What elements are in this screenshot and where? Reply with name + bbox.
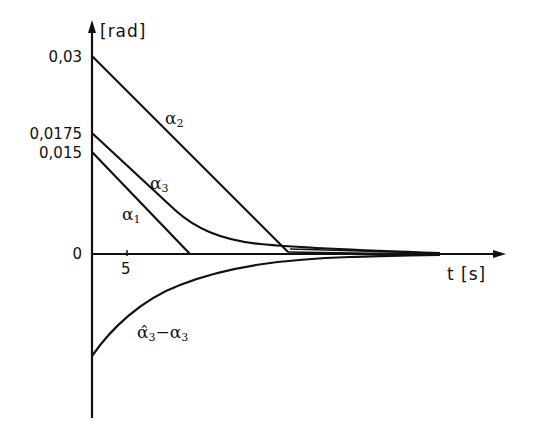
y-tick-label-0: 0 <box>22 247 82 262</box>
series-alpha1-line <box>92 152 190 254</box>
y-tick-label-0-0175: 0,0175 <box>22 127 82 142</box>
y-axis-arrow-icon <box>88 20 96 33</box>
y-tick-label-0-03: 0,03 <box>22 50 82 65</box>
series-label-alpha3: α3 <box>150 175 168 194</box>
series-label-alpha3hat-minus-alpha3: α̂3−α3 <box>137 324 188 343</box>
chart: [rad] 0,03 0,0175 0,015 0 5 t [s] α2 α3 … <box>0 0 534 444</box>
chart-canvas <box>0 0 534 444</box>
x-axis-arrow-icon <box>493 250 506 258</box>
series-label-alpha2: α2 <box>165 110 183 129</box>
x-axis-var: t <box>447 264 455 284</box>
x-axis-unit: [s] <box>461 264 486 284</box>
x-axis-label: t [s] <box>447 266 486 283</box>
series-alpha3-line <box>92 133 440 253</box>
series-label-alpha1: α1 <box>122 206 140 225</box>
x-tick-label-5: 5 <box>121 262 131 277</box>
y-tick-label-0-015: 0,015 <box>22 146 82 161</box>
y-axis-unit-label: [rad] <box>100 23 146 40</box>
